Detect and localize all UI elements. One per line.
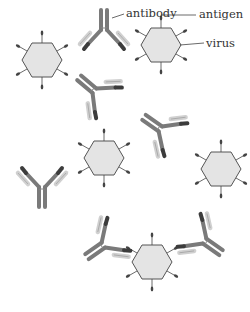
antibody-2-y-shape xyxy=(64,59,125,121)
antibody-3-y-shape xyxy=(18,168,66,207)
virus-leader-line xyxy=(180,43,204,45)
antigen-label: antigen xyxy=(199,9,243,21)
antibody-6-y-shape xyxy=(175,211,234,273)
antibody-4-y-shape xyxy=(130,98,189,160)
virus-4-hexagon xyxy=(194,140,247,199)
antibody-label: antibody xyxy=(126,8,177,20)
antibody-5-y-shape xyxy=(73,215,132,277)
virus-2-hexagon xyxy=(134,16,187,75)
agglutination-diagram: antibody antigen virus xyxy=(0,0,250,312)
antibody-1-y-shape xyxy=(80,10,128,49)
virus-3-hexagon xyxy=(77,129,130,188)
virus-5-hexagon xyxy=(125,233,178,292)
virus-1-hexagon xyxy=(15,31,68,90)
antibody-leader-line xyxy=(112,14,124,18)
virus-label: virus xyxy=(206,38,235,50)
